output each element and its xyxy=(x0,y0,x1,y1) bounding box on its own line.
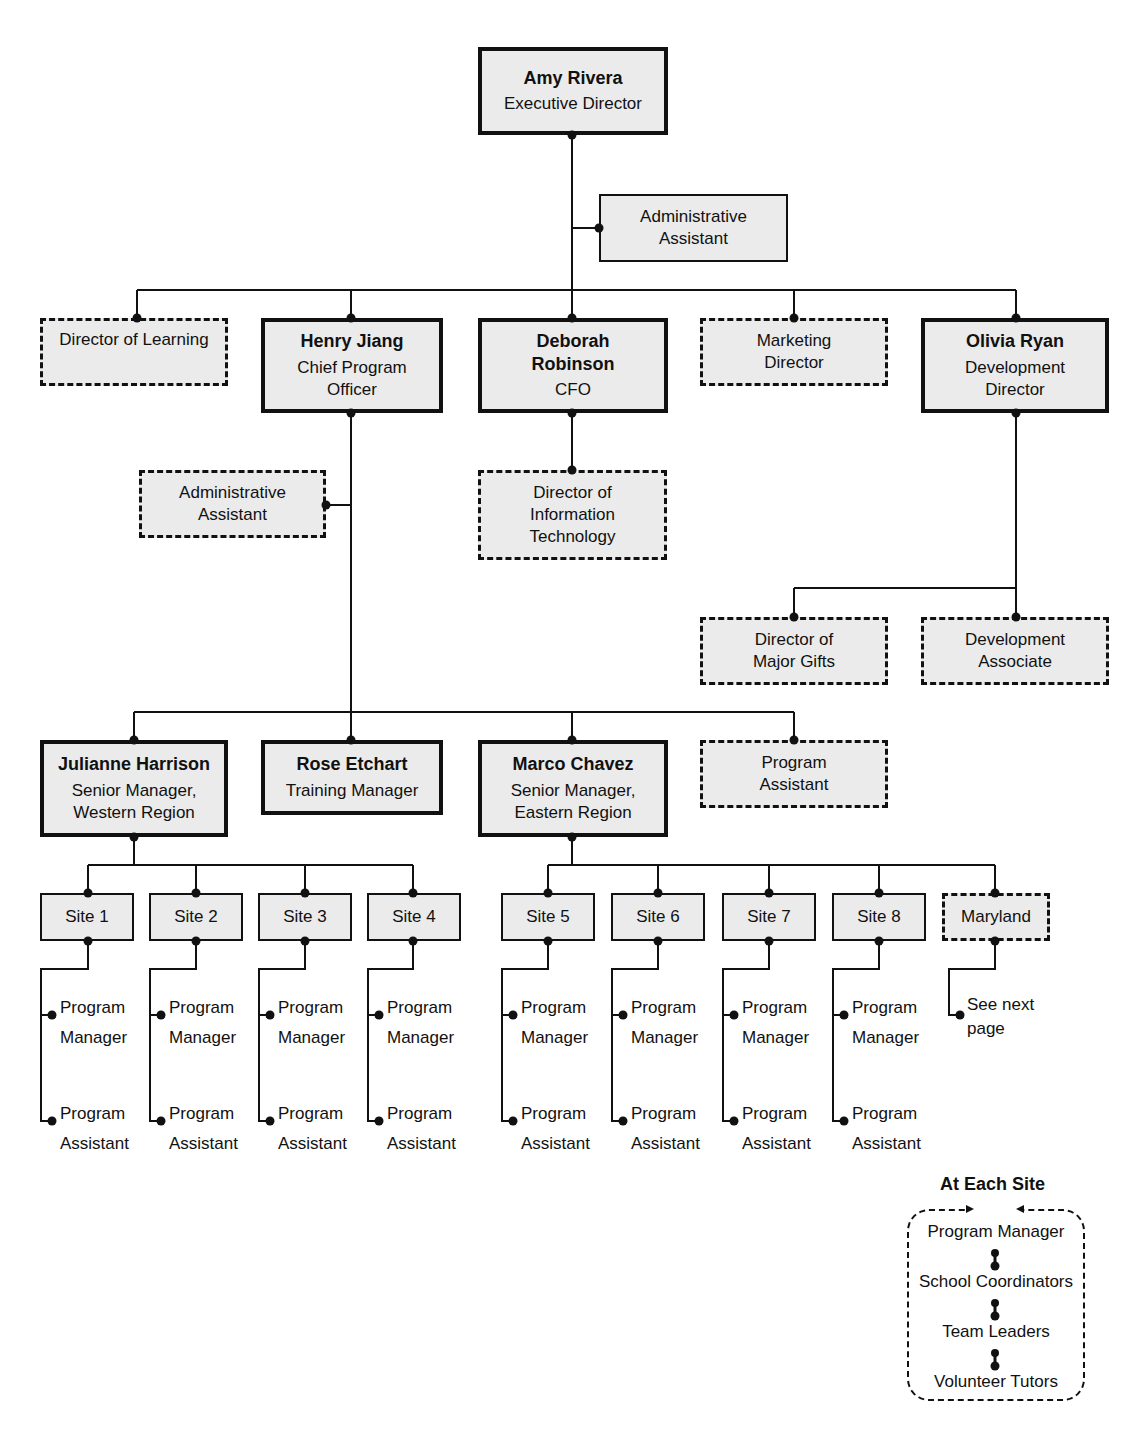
label-line: Program xyxy=(60,993,127,1023)
position-title-line: Administrative xyxy=(640,206,747,228)
position-title: Chief ProgramOfficer xyxy=(297,357,407,401)
position-title: MarketingDirector xyxy=(757,330,832,374)
position-title: Director ofInformationTechnology xyxy=(529,482,615,548)
program-assistant-label: ProgramAssistant xyxy=(742,1099,811,1159)
program-manager-label: ProgramManager xyxy=(521,993,588,1053)
label-line: Program xyxy=(742,1099,811,1129)
site-label: Site 8 xyxy=(857,906,900,928)
site-box: Site 5 xyxy=(501,893,595,941)
position-title-line: Technology xyxy=(529,526,615,548)
person-name: Marco Chavez xyxy=(512,753,633,776)
program-assistant-label: ProgramAssistant xyxy=(60,1099,129,1159)
person-name: Robinson xyxy=(532,353,615,376)
label-line: Program xyxy=(521,993,588,1023)
person-name: Amy Rivera xyxy=(523,67,622,90)
position-title: Training Manager xyxy=(286,780,419,802)
org-box-devassoc: DevelopmentAssociate xyxy=(921,617,1109,685)
label-line: Program xyxy=(521,1099,590,1129)
program-manager-label: ProgramManager xyxy=(631,993,698,1053)
person-name: Henry Jiang xyxy=(300,330,403,353)
position-title-line: Training Manager xyxy=(286,780,419,802)
legend-item: Volunteer Tutors xyxy=(906,1372,1086,1392)
label-line: Program xyxy=(169,993,236,1023)
program-assistant-label: ProgramAssistant xyxy=(631,1099,700,1159)
position-title-line: Director xyxy=(757,352,832,374)
label-line: Program xyxy=(631,1099,700,1129)
org-box-admin2: AdministrativeAssistant xyxy=(139,470,326,538)
label-line: Assistant xyxy=(631,1129,700,1159)
label-line: Manager xyxy=(742,1023,809,1053)
label-line: Program xyxy=(742,993,809,1023)
position-title: DevelopmentAssociate xyxy=(965,629,1065,673)
position-title: AdministrativeAssistant xyxy=(179,482,286,526)
label-line: Manager xyxy=(278,1023,345,1053)
label-line: Program xyxy=(852,993,919,1023)
label-line: Manager xyxy=(169,1023,236,1053)
org-box-dmg: Director ofMajor Gifts xyxy=(700,617,888,685)
position-title-line: Development xyxy=(965,357,1065,379)
program-manager-label: ProgramManager xyxy=(169,993,236,1053)
position-title-line: Director of xyxy=(529,482,615,504)
program-manager-label: ProgramManager xyxy=(60,993,127,1053)
program-assistant-label: ProgramAssistant xyxy=(169,1099,238,1159)
site-label: Site 6 xyxy=(636,906,679,928)
site-label: Maryland xyxy=(961,906,1031,928)
program-assistant-label: ProgramAssistant xyxy=(278,1099,347,1159)
label-line: Manager xyxy=(387,1023,454,1053)
position-title-line: Chief Program xyxy=(297,357,407,379)
label-line: Assistant xyxy=(169,1129,238,1159)
org-box-pa: ProgramAssistant xyxy=(700,740,888,808)
program-assistant-label: ProgramAssistant xyxy=(852,1099,921,1159)
position-title-line: Major Gifts xyxy=(753,651,835,673)
site-label: Site 3 xyxy=(283,906,326,928)
site-label: Site 5 xyxy=(526,906,569,928)
see-next-page-note: See nextpage xyxy=(967,993,1034,1041)
program-assistant-label: ProgramAssistant xyxy=(521,1099,590,1159)
label-line: Program xyxy=(60,1099,129,1129)
position-title-line: CFO xyxy=(555,379,591,401)
position-title-line: Marketing xyxy=(757,330,832,352)
site-box: Site 1 xyxy=(40,893,134,941)
position-title-line: Director xyxy=(965,379,1065,401)
label-line: Assistant xyxy=(852,1129,921,1159)
program-manager-label: ProgramManager xyxy=(852,993,919,1053)
position-title: CFO xyxy=(555,379,591,401)
person-name: Julianne Harrison xyxy=(58,753,210,776)
org-box-olivia: Olivia RyanDevelopmentDirector xyxy=(921,318,1109,413)
program-manager-label: ProgramManager xyxy=(742,993,809,1053)
site-box: Site 4 xyxy=(367,893,461,941)
org-box-amy: Amy RiveraExecutive Director xyxy=(478,47,668,135)
legend-item: Program Manager xyxy=(906,1222,1086,1242)
site-label: Site 1 xyxy=(65,906,108,928)
position-title-line: Senior Manager, xyxy=(511,780,636,802)
position-title: DevelopmentDirector xyxy=(965,357,1065,401)
site-label: Site 4 xyxy=(392,906,435,928)
label-line: Manager xyxy=(631,1023,698,1053)
label-line: Assistant xyxy=(60,1129,129,1159)
position-title-line: Information xyxy=(529,504,615,526)
program-manager-label: ProgramManager xyxy=(387,993,454,1053)
site-box: Site 3 xyxy=(258,893,352,941)
position-title: Director of Learning xyxy=(59,329,208,351)
position-title: Executive Director xyxy=(504,93,642,115)
person-name: Deborah xyxy=(536,330,609,353)
position-title-line: Eastern Region xyxy=(511,802,636,824)
label-line: Program xyxy=(387,1099,456,1129)
position-title-line: Director of xyxy=(753,629,835,651)
position-title-line: Assistant xyxy=(760,774,829,796)
position-title: Senior Manager,Eastern Region xyxy=(511,780,636,824)
label-line: Manager xyxy=(521,1023,588,1053)
label-line: Assistant xyxy=(742,1129,811,1159)
position-title-line: Officer xyxy=(297,379,407,401)
org-box-deborah: DeborahRobinsonCFO xyxy=(478,318,668,413)
site-box: Site 8 xyxy=(832,893,926,941)
label-line: page xyxy=(967,1017,1034,1041)
org-box-mkt: MarketingDirector xyxy=(700,318,888,386)
position-title-line: Executive Director xyxy=(504,93,642,115)
position-title-line: Assistant xyxy=(640,228,747,250)
position-title-line: Program xyxy=(760,752,829,774)
label-line: Assistant xyxy=(521,1129,590,1159)
label-line: Program xyxy=(852,1099,921,1129)
label-line: Program xyxy=(278,1099,347,1129)
position-title-line: Assistant xyxy=(179,504,286,526)
